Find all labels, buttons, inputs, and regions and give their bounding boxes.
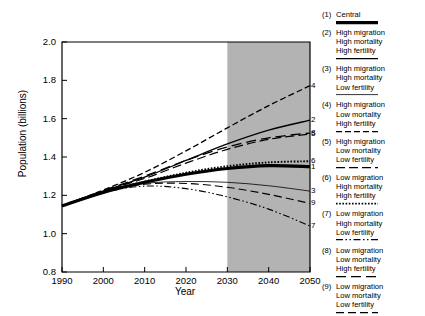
legend-line-sample: [336, 56, 380, 61]
legend-item-4[interactable]: (4)High migrationLow mortalityHigh ferti…: [322, 100, 425, 133]
legend-item-8[interactable]: (8)Low migrationLow mortalityHigh fertil…: [322, 246, 425, 279]
x-tick-label: 2020: [166, 275, 206, 286]
legend-item-label: High fertility: [336, 46, 425, 55]
legend-line-sample: [336, 201, 380, 206]
legend-line-sample: [336, 237, 380, 242]
x-axis-label: Year: [60, 286, 310, 297]
legend-item-1[interactable]: (1)Central: [322, 10, 425, 25]
legend-item-number: (7): [322, 209, 335, 218]
legend-item-number: (2): [322, 28, 335, 37]
legend-item-6[interactable]: (6)Low migrationHigh mortalityHigh ferti…: [322, 173, 425, 206]
legend-item-5[interactable]: (5)High migrationLow mortalityLow fertil…: [322, 137, 425, 170]
legend-line-sample: [336, 20, 380, 25]
y-tick-label: 1.0: [30, 228, 56, 239]
legend-item-label: Low mortality: [336, 146, 425, 155]
legend-item-number: (5): [322, 137, 335, 146]
legend-item-number: (9): [322, 282, 335, 291]
legend-line-sample: [336, 129, 380, 134]
legend-item-label: Low mortality: [336, 291, 425, 300]
legend-item-label: Low mortality: [336, 110, 425, 119]
legend-item-label: High fertility: [336, 264, 425, 273]
legend-item-label: High migration: [336, 137, 425, 146]
legend-item-label: Low migration: [336, 282, 425, 291]
legend-item-label: Low fertility: [336, 155, 425, 164]
shaded-projection-region: [227, 42, 310, 272]
y-axis-label: Population (billions): [17, 74, 28, 194]
legend-item-3[interactable]: (3)High migrationHigh mortalityLow ferti…: [322, 64, 425, 97]
legend-item-label: High migration: [336, 64, 425, 73]
legend-item-label: High mortality: [336, 219, 425, 228]
legend-item-7[interactable]: (7)Low migrationHigh mortalityLow fertil…: [322, 209, 425, 242]
legend-item-label: Low migration: [336, 209, 425, 218]
legend-item-number: (8): [322, 246, 335, 255]
y-tick-label: 2.0: [30, 36, 56, 47]
legend-item-label: High mortality: [336, 37, 425, 46]
legend-item-label: High migration: [336, 28, 425, 37]
legend-item-label: High migration: [336, 100, 425, 109]
x-tick-label: 1990: [42, 275, 82, 286]
x-tick-label: 2030: [207, 275, 247, 286]
legend-item-label: Central: [336, 10, 425, 19]
legend-item-label: High mortality: [336, 182, 425, 191]
legend-item-label: Low migration: [336, 173, 425, 182]
chart-figure: Population (billions) Year 2.01.81.61.41…: [0, 0, 425, 316]
legend-item-number: (3): [322, 64, 335, 73]
legend-item-2[interactable]: (2)High migrationHigh mortalityHigh fert…: [322, 28, 425, 61]
legend-item-label: Low fertility: [336, 228, 425, 237]
legend-item-label: High mortality: [336, 73, 425, 82]
legend-item-label: High fertility: [336, 119, 425, 128]
y-tick-label: 1.4: [30, 151, 56, 162]
legend-item-number: (4): [322, 100, 335, 109]
y-tick-label: 1.6: [30, 113, 56, 124]
legend-item-number: (6): [322, 173, 335, 182]
legend-line-sample: [336, 274, 380, 279]
legend-item-label: Low mortality: [336, 255, 425, 264]
legend-item-9[interactable]: (9)Low migrationLow mortalityLow fertili…: [322, 282, 425, 315]
x-tick-label: 2000: [83, 275, 123, 286]
y-tick-label: 1.8: [30, 74, 56, 85]
legend-item-number: (1): [322, 10, 335, 19]
legend-item-label: Low migration: [336, 246, 425, 255]
x-tick-label: 2040: [249, 275, 289, 286]
legend-item-label: Low fertility: [336, 300, 425, 309]
legend-line-sample: [336, 310, 380, 315]
legend: (1)Central(2)High migrationHigh mortalit…: [322, 10, 425, 316]
legend-item-label: High fertility: [336, 191, 425, 200]
legend-line-sample: [336, 92, 380, 97]
legend-line-sample: [336, 165, 380, 170]
legend-item-label: Low fertility: [336, 83, 425, 92]
x-tick-label: 2010: [125, 275, 165, 286]
y-tick-label: 1.2: [30, 189, 56, 200]
plot-area: Population (billions) Year 2.01.81.61.41…: [0, 0, 318, 316]
